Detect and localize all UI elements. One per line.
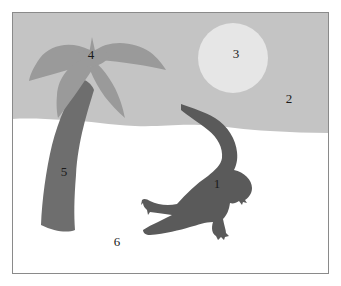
label-1-crocodile: 1 — [214, 177, 221, 190]
label-2-sky: 2 — [286, 92, 293, 105]
label-5-palm-trunk: 5 — [61, 165, 68, 178]
label-3-sun: 3 — [233, 47, 240, 60]
scene-canvas — [0, 0, 341, 286]
scene-illustration: 1 2 3 4 5 6 — [0, 0, 341, 286]
label-6-sand: 6 — [114, 235, 121, 248]
label-4-palm-leaves: 4 — [88, 48, 95, 61]
